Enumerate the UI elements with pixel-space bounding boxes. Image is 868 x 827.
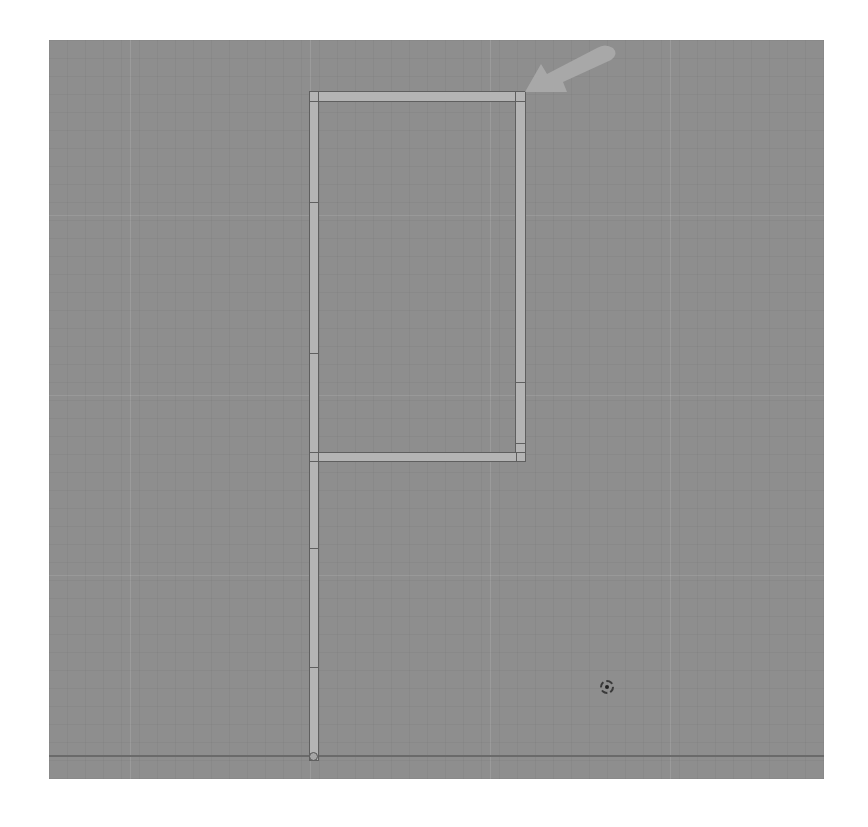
annotation-arrow-icon bbox=[501, 40, 621, 110]
grid-line bbox=[490, 40, 491, 779]
left-post-bar[interactable] bbox=[310, 92, 318, 760]
right-post-bar[interactable] bbox=[516, 92, 525, 461]
edge-loop bbox=[318, 92, 319, 101]
edge-loop bbox=[516, 443, 525, 444]
edge-loop bbox=[310, 548, 318, 549]
grid-line bbox=[49, 395, 824, 396]
edge-loop bbox=[516, 382, 525, 383]
grid-line bbox=[670, 40, 671, 779]
grid-line bbox=[49, 575, 824, 576]
grid-line bbox=[130, 40, 131, 779]
middle-rail-bar[interactable] bbox=[310, 453, 525, 461]
3d-cursor-icon[interactable] bbox=[600, 680, 614, 694]
top-rail-bar[interactable] bbox=[310, 92, 525, 101]
3d-viewport[interactable] bbox=[49, 40, 824, 779]
edge-loop bbox=[310, 667, 318, 668]
edge-loop bbox=[516, 453, 517, 461]
object-origin-icon[interactable] bbox=[309, 752, 318, 761]
grid-line bbox=[49, 215, 824, 216]
edge-loop bbox=[310, 353, 318, 354]
edge-loop bbox=[318, 453, 319, 461]
edge-loop bbox=[310, 202, 318, 203]
x-axis-line bbox=[49, 755, 824, 757]
